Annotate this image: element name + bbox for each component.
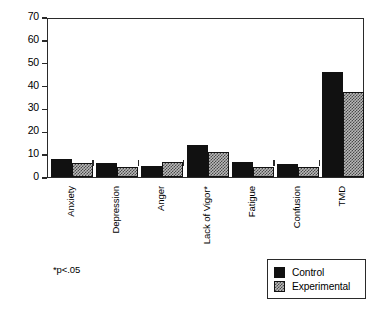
y-axis-tick-label: 0 xyxy=(33,171,39,182)
x-axis-category-label: Anger xyxy=(156,186,166,211)
bar-experimental xyxy=(298,167,319,177)
legend-label-control: Control xyxy=(292,267,324,278)
x-axis-category-label: Anxiety xyxy=(66,186,76,217)
bar-control xyxy=(322,72,343,177)
legend-item-experimental: Experimental xyxy=(274,279,359,293)
legend-swatch-control-icon xyxy=(274,267,285,278)
bar-experimental xyxy=(343,92,364,177)
x-axis-tick-mark xyxy=(228,160,229,166)
bar-group xyxy=(322,19,364,177)
y-axis-tick-label: 50 xyxy=(28,57,39,68)
bar-control xyxy=(232,162,253,177)
x-axis-tick-mark xyxy=(319,160,320,166)
legend-label-experimental: Experimental xyxy=(292,281,350,292)
bar-experimental xyxy=(117,167,138,177)
y-axis-tick-label: 20 xyxy=(28,125,39,136)
x-axis-category-label: TMD xyxy=(337,186,347,206)
legend-swatch-experimental-icon xyxy=(274,281,285,292)
bar-group xyxy=(277,19,319,177)
y-axis-tick-label: 60 xyxy=(28,34,39,45)
bar-control xyxy=(96,163,117,177)
x-axis-category-label: Lack of Vigor* xyxy=(202,186,212,244)
bar-experimental xyxy=(253,167,274,177)
bar-experimental xyxy=(162,162,183,177)
bar-experimental xyxy=(208,152,229,177)
x-axis-tick-mark xyxy=(183,160,184,166)
x-axis-category-label: Fatigue xyxy=(247,186,257,217)
x-axis-tick-mark xyxy=(92,160,93,166)
bar-chart-figure: 706050403020100 AnxietyDepressionAngerLa… xyxy=(0,0,377,309)
y-axis-tick-label: 70 xyxy=(28,11,39,22)
y-axis-tick-label: 10 xyxy=(28,148,39,159)
bar-group xyxy=(96,19,138,177)
bar-control xyxy=(51,159,72,177)
bar-control xyxy=(277,164,298,177)
y-axis-tick-label: 40 xyxy=(28,80,39,91)
bar-group xyxy=(51,19,93,177)
x-axis-category-label: Confusion xyxy=(292,186,302,228)
y-axis-tick-label: 30 xyxy=(28,102,39,113)
significance-footnote: *p<.05 xyxy=(53,264,80,275)
x-axis-tick-mark xyxy=(138,160,139,166)
x-axis-tick-mark xyxy=(273,160,274,166)
x-axis-category-label: Depression xyxy=(111,186,121,234)
bar-control xyxy=(141,166,162,177)
bar-experimental xyxy=(72,163,93,177)
plot-area xyxy=(47,18,364,178)
chart-legend: Control Experimental xyxy=(267,259,366,299)
bar-group xyxy=(141,19,183,177)
bar-group xyxy=(187,19,229,177)
y-axis: 706050403020100 xyxy=(0,18,47,179)
bar-group xyxy=(232,19,274,177)
legend-item-control: Control xyxy=(274,265,359,279)
bar-control xyxy=(187,145,208,177)
